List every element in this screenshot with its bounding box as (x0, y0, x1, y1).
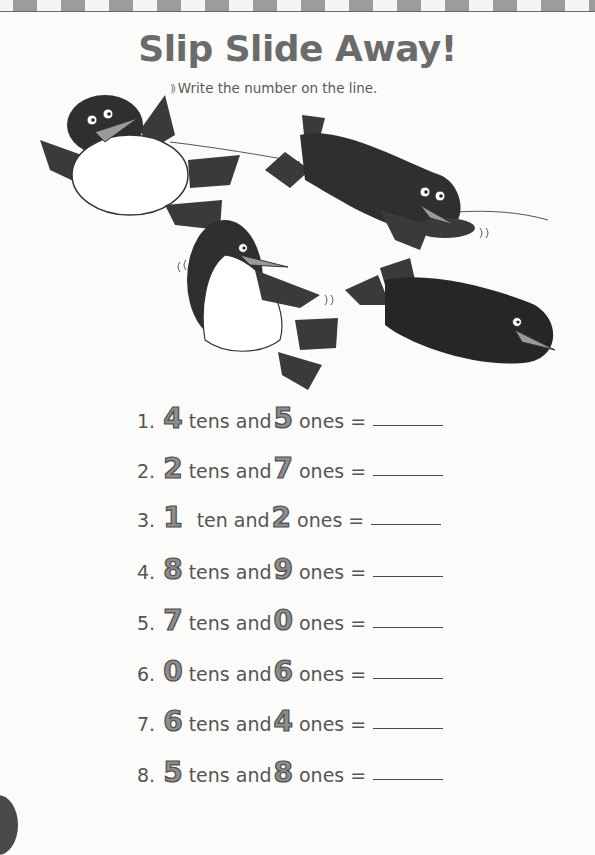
problem-number: 8. (137, 764, 155, 786)
ones-text: ones = (299, 764, 366, 786)
tens-text: tens and (189, 612, 272, 634)
problem-number: 5. (137, 612, 155, 634)
tens-text: tens and (189, 561, 272, 583)
problem-number: 6. (137, 663, 155, 685)
answer-line[interactable] (373, 626, 443, 628)
tens-digit: 1 (163, 501, 182, 534)
tens-digit: 2 (163, 452, 182, 485)
problem-row: 7. 6 tens and 4 ones = (137, 705, 443, 745)
answer-line[interactable] (373, 474, 443, 476)
ones-text: ones = (297, 509, 364, 531)
penguins-illustration (0, 90, 595, 400)
problem-number: 3. (137, 509, 155, 531)
tens-digit: 7 (163, 604, 182, 637)
ones-text: ones = (299, 663, 366, 685)
tens-text: ten and (197, 509, 270, 531)
tens-text: tens and (189, 410, 272, 432)
penguin-1 (40, 95, 240, 230)
tens-digit: 0 (163, 655, 182, 688)
problem-row: 8. 5 tens and 8 ones = (137, 756, 443, 796)
ones-text: ones = (299, 410, 366, 432)
page-title: Slip Slide Away! (0, 28, 595, 69)
answer-line[interactable] (371, 523, 441, 525)
ones-text: ones = (299, 561, 366, 583)
ones-digit: 8 (274, 756, 293, 789)
ones-text: ones = (299, 460, 366, 482)
tens-digit: 4 (163, 402, 182, 435)
ones-digit: 5 (274, 402, 293, 435)
answer-line[interactable] (373, 727, 443, 729)
motion-lines (178, 260, 186, 272)
tens-text: tens and (189, 663, 272, 685)
problem-row: 2. 2 tens and 7 ones = (137, 452, 443, 492)
ones-digit: 7 (274, 452, 293, 485)
ones-text: ones = (299, 612, 366, 634)
ice-line (455, 211, 548, 220)
problem-row: 5. 7 tens and 0 ones = (137, 604, 443, 644)
problem-row: 1. 4 tens and 5 ones = (137, 402, 443, 442)
motion-lines (480, 228, 488, 238)
ones-digit: 9 (274, 553, 293, 586)
penguin-4 (345, 258, 555, 364)
problem-row: 3. 1 ten and 2 ones = (137, 501, 441, 541)
answer-line[interactable] (373, 424, 443, 426)
ones-digit: 0 (274, 604, 293, 637)
page-corner-decoration (0, 795, 18, 855)
checkered-border (0, 0, 595, 12)
answer-line[interactable] (373, 575, 443, 577)
tens-digit: 8 (163, 553, 182, 586)
tens-text: tens and (189, 713, 272, 735)
tens-digit: 6 (163, 705, 182, 738)
motion-lines (325, 295, 333, 305)
penguin-3 (178, 220, 338, 390)
problem-row: 6. 0 tens and 6 ones = (137, 655, 443, 695)
problem-number: 7. (137, 713, 155, 735)
ones-text: ones = (299, 713, 366, 735)
tens-digit: 5 (163, 756, 182, 789)
problem-number: 2. (137, 460, 155, 482)
tens-text: tens and (189, 460, 272, 482)
ones-digit: 2 (272, 501, 291, 534)
tens-text: tens and (189, 764, 272, 786)
problem-number: 4. (137, 561, 155, 583)
ones-digit: 6 (274, 655, 293, 688)
problem-row: 4. 8 tens and 9 ones = (137, 553, 443, 593)
answer-line[interactable] (373, 778, 443, 780)
answer-line[interactable] (373, 677, 443, 679)
problem-number: 1. (137, 410, 155, 432)
penguin-2 (265, 115, 488, 250)
ones-digit: 4 (274, 705, 293, 738)
